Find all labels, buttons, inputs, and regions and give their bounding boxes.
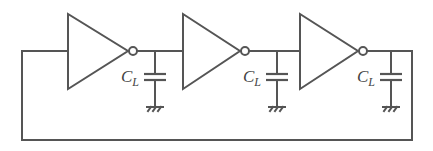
ground-icon: [383, 107, 399, 111]
inverter-stage-3: CL: [300, 14, 412, 111]
label-main: C: [357, 67, 369, 86]
inverter-stage-1: CL: [68, 14, 183, 111]
inverter-bubble: [129, 47, 137, 55]
ground-icon: [147, 107, 163, 111]
inverter-triangle: [68, 14, 128, 89]
capacitor-label: CL: [243, 67, 261, 89]
ring-oscillator-diagram: CLCLCL: [0, 0, 433, 151]
label-subscript: L: [253, 75, 261, 89]
capacitor-label: CL: [121, 67, 139, 89]
inverter-triangle: [183, 14, 240, 89]
label-main: C: [243, 67, 255, 86]
label-subscript: L: [367, 75, 375, 89]
inverter-triangle: [300, 14, 358, 89]
ground-icon: [269, 107, 285, 111]
inverter-stage-2: CL: [183, 14, 300, 111]
inverter-stages: CLCLCL: [68, 14, 412, 111]
label-main: C: [121, 67, 133, 86]
label-subscript: L: [131, 75, 139, 89]
inverter-bubble: [241, 47, 249, 55]
capacitor-label: CL: [357, 67, 375, 89]
inverter-bubble: [359, 47, 367, 55]
